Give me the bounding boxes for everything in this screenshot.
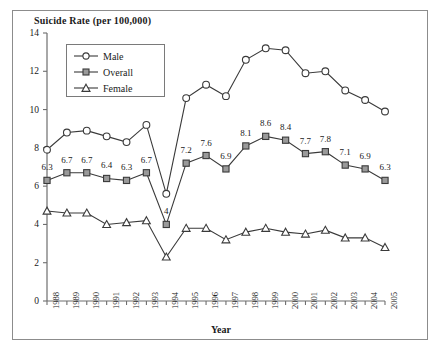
legend-label-overall: Overall: [103, 67, 133, 78]
legend-marker-triangle-icon: [73, 82, 99, 94]
data-point-overall: [263, 133, 269, 139]
data-point-female: [222, 236, 230, 243]
data-point-overall: [362, 166, 368, 172]
data-label: 6.3: [121, 162, 132, 172]
x-tick-label: 2002: [329, 292, 339, 309]
x-tick-label: 1996: [210, 292, 220, 309]
x-tick-label: 2005: [389, 292, 399, 309]
data-label: 8.1: [240, 128, 251, 138]
data-label: 4: [164, 206, 169, 216]
data-point-male: [342, 87, 349, 94]
data-point-overall: [203, 152, 209, 158]
data-point-overall: [143, 170, 149, 176]
data-point-overall: [243, 143, 249, 149]
x-tick-label: 1994: [170, 292, 180, 309]
x-tick-label: 1997: [230, 292, 240, 309]
data-label: 7.6: [200, 138, 211, 148]
data-point-overall: [342, 162, 348, 168]
data-point-overall: [322, 149, 328, 155]
legend-label-male: Male: [103, 51, 124, 62]
data-label: 7.7: [300, 136, 311, 146]
legend-marker-circle-icon: [73, 50, 99, 62]
legend-item-male: Male: [73, 48, 164, 64]
x-tick-label: 1991: [111, 292, 121, 309]
data-point-male: [44, 146, 51, 153]
x-tick-label: 2000: [290, 292, 300, 309]
data-point-male: [63, 129, 70, 136]
data-point-male: [143, 121, 150, 128]
data-point-male: [382, 108, 389, 115]
data-label: 6.9: [220, 151, 231, 161]
data-point-overall: [64, 170, 70, 176]
y-tick-label: 0: [19, 296, 39, 306]
y-tick-label: 12: [19, 66, 39, 76]
data-point-overall: [163, 221, 169, 227]
data-label: 7.1: [340, 147, 351, 157]
data-label: 7.2: [181, 145, 192, 155]
y-tick-label: 10: [19, 105, 39, 115]
x-tick-label: 1988: [51, 292, 61, 309]
legend-item-overall: Overall: [73, 64, 164, 80]
data-point-male: [282, 47, 289, 54]
y-tick-label: 8: [19, 143, 39, 153]
data-label: 7.8: [320, 134, 331, 144]
series-line-overall: [47, 136, 385, 224]
data-point-male: [163, 190, 170, 197]
data-point-overall: [123, 177, 129, 183]
data-point-male: [123, 139, 130, 146]
data-point-overall: [382, 177, 388, 183]
data-label: 6.3: [379, 162, 390, 172]
data-point-overall: [302, 151, 308, 157]
data-point-female: [162, 253, 170, 260]
chart-title: Suicide Rate (per 100,000): [34, 15, 151, 26]
data-label: 8.4: [280, 122, 291, 132]
data-point-overall: [84, 170, 90, 176]
x-tick-label: 1995: [190, 292, 200, 309]
legend-item-female: Female: [73, 80, 164, 96]
x-tick-label: 2001: [309, 292, 319, 309]
x-tick-label: 1990: [91, 292, 101, 309]
data-point-female: [262, 224, 270, 231]
y-tick-label: 14: [19, 28, 39, 38]
data-point-male: [322, 68, 329, 75]
data-label: 6.4: [101, 160, 112, 170]
data-point-overall: [104, 175, 110, 181]
data-label: 6.7: [81, 155, 92, 165]
x-tick-label: 1989: [71, 292, 81, 309]
data-point-overall: [44, 177, 50, 183]
chart-legend: Male Overall Female: [66, 44, 165, 97]
data-label: 8.6: [260, 118, 271, 128]
data-point-overall: [183, 160, 189, 166]
x-tick-label: 2004: [369, 292, 379, 309]
x-tick-label: 2003: [349, 292, 359, 309]
data-label: 6.7: [61, 155, 72, 165]
data-label: 6.9: [359, 151, 370, 161]
y-tick-label: 4: [19, 219, 39, 229]
data-point-female: [321, 226, 329, 233]
data-point-male: [203, 81, 210, 88]
x-tick-label: 1993: [150, 292, 160, 309]
x-axis-title: Year: [0, 324, 442, 335]
data-point-overall: [223, 166, 229, 172]
data-point-male: [302, 70, 309, 77]
data-point-male: [183, 95, 190, 102]
data-point-male: [103, 133, 110, 140]
data-point-male: [242, 56, 249, 63]
data-point-overall: [282, 137, 288, 143]
x-tick-label: 1992: [131, 292, 141, 309]
y-tick-label: 6: [19, 181, 39, 191]
data-point-male: [223, 93, 230, 100]
data-point-female: [143, 217, 151, 224]
data-label: 6.3: [41, 162, 52, 172]
y-tick-label: 2: [19, 258, 39, 268]
data-point-male: [262, 45, 269, 52]
data-point-male: [362, 97, 369, 104]
x-tick-label: 1999: [270, 292, 280, 309]
x-tick-label: 1998: [250, 292, 260, 309]
data-point-male: [83, 127, 90, 134]
series-line-female: [47, 211, 385, 257]
data-label: 6.7: [141, 155, 152, 165]
legend-label-female: Female: [103, 83, 132, 94]
figure-container: Suicide Rate (per 100,000) 0246810121419…: [0, 0, 442, 352]
legend-marker-square-icon: [73, 66, 99, 78]
